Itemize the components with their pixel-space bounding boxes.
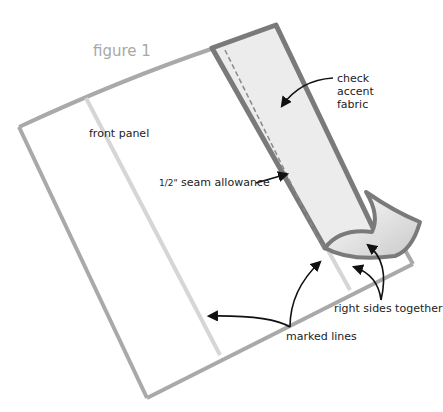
label-seam-allowance: 1/2" seam allowance (159, 176, 270, 190)
label-fabric: fabric (337, 98, 368, 111)
label-marked-lines: marked lines (286, 330, 357, 343)
figure-title: figure 1 (93, 42, 151, 60)
seam-fraction: 1/2" (159, 178, 178, 188)
diagram-drawing (0, 0, 443, 412)
label-accent: accent (337, 85, 374, 98)
label-right-sides-together: right sides together (334, 302, 442, 315)
label-check: check (337, 72, 369, 85)
label-front-panel: front panel (89, 127, 149, 140)
seam-text: seam allowance (178, 176, 270, 189)
